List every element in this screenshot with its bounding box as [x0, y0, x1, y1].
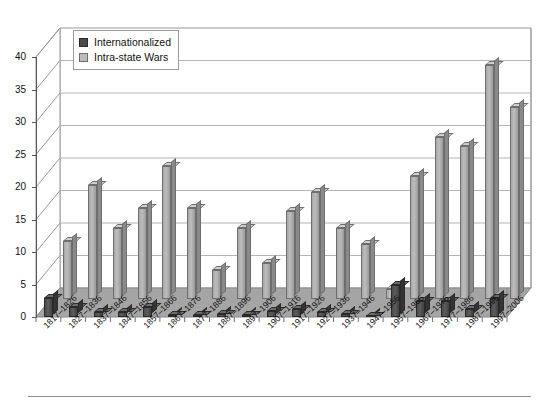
bar-side-face	[320, 184, 325, 295]
bar-side-face	[370, 236, 375, 295]
bar-side-face	[345, 220, 350, 295]
legend-swatch-icon	[79, 53, 88, 62]
bar-side-face	[196, 200, 201, 295]
bar-front-face	[485, 65, 494, 299]
bar	[88, 185, 97, 299]
bar	[237, 228, 246, 300]
y-axis-tick-label: 15	[2, 215, 26, 225]
bar-side-face	[246, 220, 251, 295]
bar-front-face	[311, 192, 320, 299]
bar	[162, 166, 171, 299]
bar-side-face	[295, 203, 300, 295]
chart-container: 0510152025303540 1817–18261827–18361837–…	[0, 0, 559, 410]
bar	[485, 65, 494, 299]
bar-front-face	[88, 185, 97, 299]
y-axis-tick	[32, 90, 37, 91]
legend-item-label: Internationalized	[94, 37, 171, 48]
bar-side-face	[171, 158, 176, 295]
y-axis-tick-label: 35	[2, 85, 26, 95]
legend-item: Internationalized	[79, 35, 171, 50]
bar	[138, 208, 147, 299]
bar-front-face	[410, 176, 419, 300]
bar-front-face	[361, 244, 370, 299]
bar	[361, 244, 370, 299]
y-axis-tick-label: 25	[2, 150, 26, 160]
bar-side-face	[469, 138, 474, 295]
y-axis-tick-label: 0	[2, 312, 26, 322]
chart-legend: InternationalizedIntra-state Wars	[73, 30, 179, 70]
bar-front-face	[510, 107, 519, 299]
bar-side-face	[122, 220, 127, 295]
legend-item: Intra-state Wars	[79, 50, 171, 65]
y-axis-tick	[32, 220, 37, 221]
legend-swatch-icon	[79, 38, 88, 47]
bar-front-face	[187, 208, 196, 299]
y-axis-tick-label: 5	[2, 280, 26, 290]
bar	[460, 146, 469, 299]
legend-item-label: Intra-state Wars	[94, 52, 168, 63]
bar-side-face	[494, 57, 499, 295]
bar-side-face	[271, 255, 276, 295]
bar-side-face	[147, 200, 152, 295]
bar	[336, 228, 345, 300]
bar	[410, 176, 419, 300]
y-axis-tick-label: 10	[2, 247, 26, 257]
bar-front-face	[336, 228, 345, 300]
y-axis-tick	[32, 252, 37, 253]
bar-side-face	[519, 99, 524, 295]
bar-side-face	[221, 262, 226, 295]
bar-side-face	[419, 168, 424, 295]
bar-front-face	[113, 228, 122, 300]
y-axis-tick-label: 30	[2, 117, 26, 127]
bar	[187, 208, 196, 299]
bar-side-face	[97, 177, 102, 295]
bar	[311, 192, 320, 299]
y-axis-tick-label: 40	[2, 52, 26, 62]
bar-side-face	[444, 129, 449, 295]
bar	[286, 211, 295, 299]
bar-front-face	[237, 228, 246, 300]
bar-side-face	[72, 233, 77, 295]
footer-caption	[28, 400, 531, 410]
bar	[510, 107, 519, 299]
bar-front-face	[460, 146, 469, 299]
bar	[113, 228, 122, 300]
y-axis-tick	[32, 187, 37, 188]
y-axis-tick	[32, 57, 37, 58]
bar	[63, 241, 72, 300]
bar	[435, 137, 444, 300]
y-axis-tick	[32, 122, 37, 123]
y-axis-tick	[32, 317, 37, 318]
bar-front-face	[435, 137, 444, 300]
y-axis-tick-label: 20	[2, 182, 26, 192]
bar-front-face	[138, 208, 147, 299]
y-axis-tick	[32, 285, 37, 286]
footer-divider	[28, 396, 531, 397]
y-axis-tick	[32, 155, 37, 156]
bar-front-face	[63, 241, 72, 300]
